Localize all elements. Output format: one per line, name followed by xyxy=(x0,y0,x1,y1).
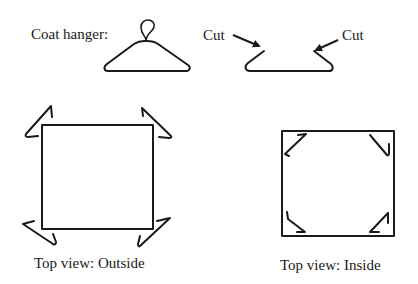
inside-view-caption: Top view: Inside xyxy=(280,258,381,273)
inside-clip-top-left-icon xyxy=(285,134,306,156)
outside-clip-bottom-left-icon xyxy=(23,221,56,244)
cut-right-label: Cut xyxy=(342,28,364,43)
outside-view-caption: Top view: Outside xyxy=(34,256,145,271)
inside-square xyxy=(282,131,394,236)
inside-view-figure xyxy=(282,131,394,236)
coat-hanger-icon xyxy=(104,20,189,71)
cut-right-arrow-icon xyxy=(316,40,338,50)
cut-left-arrow-icon xyxy=(233,35,259,46)
outside-clip-top-left-icon xyxy=(26,106,52,137)
cut-left-label: Cut xyxy=(203,28,225,43)
cut-hanger-icon xyxy=(246,51,333,71)
outside-square xyxy=(42,125,153,229)
outside-clip-top-right-icon xyxy=(142,108,171,138)
inside-clip-bottom-left-icon xyxy=(287,212,305,232)
outside-view-figure xyxy=(23,106,171,246)
coat-hanger-label: Coat hanger: xyxy=(31,27,108,42)
inside-clip-top-right-icon xyxy=(370,135,389,155)
inside-clip-bottom-right-icon xyxy=(370,213,388,232)
